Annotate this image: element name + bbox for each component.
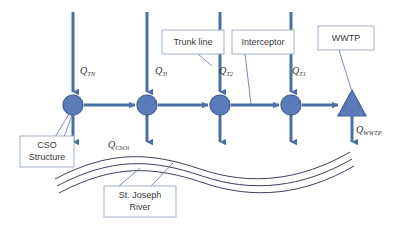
st-joseph-river-graphic bbox=[55, 152, 354, 193]
wwtp-plant-node[interactable] bbox=[338, 90, 366, 116]
callout-interceptor[interactable]: Interceptor bbox=[232, 30, 294, 54]
leader-wwtp bbox=[339, 50, 352, 92]
cso-structure-node-2[interactable] bbox=[137, 95, 157, 115]
callout-st-joseph-river-label-line2: River bbox=[129, 202, 150, 212]
river-line-1 bbox=[55, 152, 350, 179]
leader-cso-structure-b bbox=[64, 115, 72, 137]
leader-river-b bbox=[151, 163, 173, 186]
callout-leader-group bbox=[55, 50, 352, 186]
callout-wwtp[interactable]: WWTP bbox=[318, 26, 374, 50]
sewer-network-diagram: Trunk line Interceptor WWTP CSO Structur… bbox=[0, 0, 395, 231]
flow-label-group: QTN QTi QT2 QT1 QCSOi QWWTP bbox=[80, 65, 382, 151]
callout-st-joseph-river[interactable]: St. Joseph River bbox=[104, 186, 176, 217]
river-line-2 bbox=[57, 159, 352, 186]
callout-cso-structure-label-line1: CSO bbox=[37, 140, 57, 150]
overflow-arrow-group bbox=[73, 112, 352, 142]
flow-label-q-ti-sub: Ti bbox=[162, 70, 167, 77]
cso-structure-node-1[interactable] bbox=[63, 95, 83, 115]
flow-label-q-t1: QT1 bbox=[292, 65, 306, 77]
flow-label-q-t2: QT2 bbox=[219, 65, 234, 77]
flow-label-q-t1-sub: T1 bbox=[299, 70, 306, 77]
flow-label-q-wwtp-sub: WWTP bbox=[363, 129, 381, 136]
callout-wwtp-label: WWTP bbox=[332, 33, 361, 43]
callout-cso-structure[interactable]: CSO Structure bbox=[20, 136, 74, 167]
callout-interceptor-label: Interceptor bbox=[241, 37, 284, 47]
node-group bbox=[63, 90, 366, 116]
flow-label-q-csoi: QCSOi bbox=[108, 139, 130, 151]
diagram-canvas: Trunk line Interceptor WWTP CSO Structur… bbox=[0, 0, 395, 231]
callout-trunk-line[interactable]: Trunk line bbox=[162, 30, 224, 54]
flow-label-q-tn: QTN bbox=[80, 65, 96, 77]
flow-label-q-csoi-sub: CSOi bbox=[115, 144, 129, 151]
leader-trunk-line bbox=[198, 54, 212, 66]
flow-label-q-t2-sub: T2 bbox=[226, 70, 234, 77]
flow-label-q-wwtp: QWWTP bbox=[356, 124, 382, 136]
callout-st-joseph-river-label-line1: St. Joseph bbox=[119, 190, 162, 200]
leader-interceptor bbox=[245, 54, 251, 104]
callout-cso-structure-label-line2: Structure bbox=[29, 152, 66, 162]
leader-cso-structure-a bbox=[55, 114, 69, 137]
cso-structure-node-4[interactable] bbox=[281, 95, 301, 115]
flow-label-q-ti: QTi bbox=[155, 65, 167, 77]
cso-structure-node-3[interactable] bbox=[210, 95, 230, 115]
flow-label-q-tn-sub: TN bbox=[87, 70, 96, 77]
callout-trunk-line-label: Trunk line bbox=[173, 37, 212, 47]
